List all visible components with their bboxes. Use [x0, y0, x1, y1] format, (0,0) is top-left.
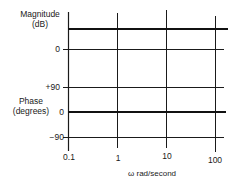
- x-tick-0.1: 0.1: [54, 152, 84, 162]
- magnitude-tick-0: 0: [40, 44, 60, 54]
- magnitude-axis-title: Magnitude (dB): [18, 9, 62, 29]
- phase-label: Phase: [6, 96, 56, 106]
- x-axis-title: ω rad/second: [128, 169, 176, 179]
- magnitude-label: Magnitude: [18, 9, 62, 19]
- x-tick-1: 1: [103, 153, 133, 163]
- x-tick-10: 10: [152, 151, 182, 161]
- x-tick-100: 100: [200, 155, 230, 165]
- phase-tick-minus90: −90: [36, 132, 64, 142]
- phase-tick-0: 0: [40, 107, 64, 117]
- phase-tick-plus90: +90: [36, 82, 60, 92]
- magnitude-unit-label: (dB): [18, 19, 62, 29]
